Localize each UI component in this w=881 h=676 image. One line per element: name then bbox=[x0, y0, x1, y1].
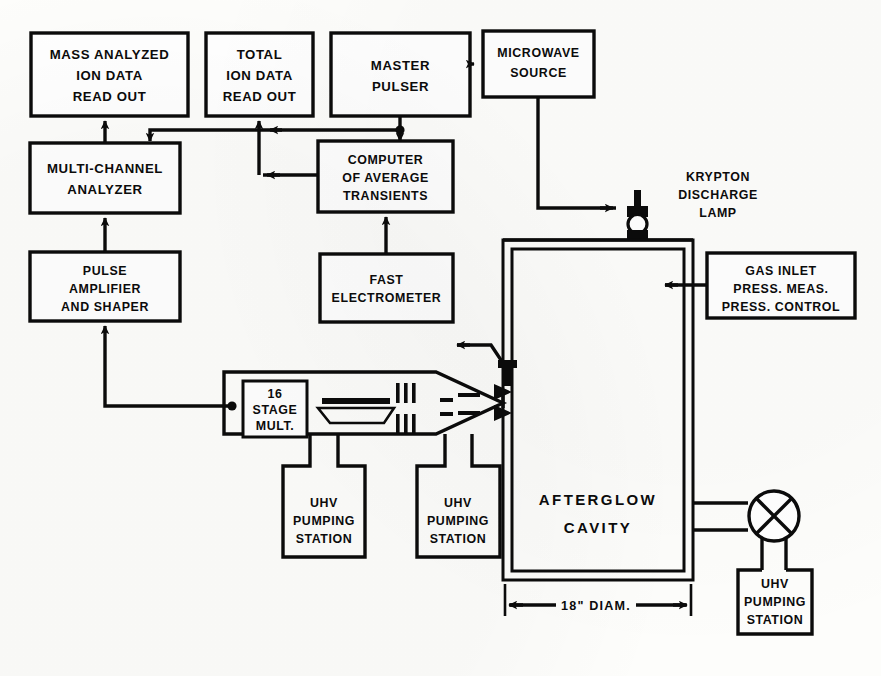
block-label-line: MASS ANALYZED bbox=[50, 47, 170, 62]
uhv-pump-left-assembly: UHV PUMPING STATION bbox=[283, 434, 365, 557]
wire-multiplier-to-pulse-amplifier bbox=[105, 326, 237, 411]
annotation-line: AFTERGLOW bbox=[539, 491, 657, 508]
block-label-line: MICROWAVE bbox=[497, 46, 579, 60]
krypton-discharge-lamp-assembly bbox=[627, 190, 648, 240]
block-label-line: ANALYZER bbox=[67, 182, 142, 197]
annotation-line: DISCHARGE bbox=[678, 188, 758, 202]
block-mass-analyzed-ion-data-read-out: MASS ANALYZED ION DATA READ OUT bbox=[31, 33, 188, 116]
block-label-line: SOURCE bbox=[510, 66, 567, 80]
block-label-line: MULTI-CHANNEL bbox=[47, 161, 163, 176]
block-label-line: PULSER bbox=[372, 79, 429, 94]
block-label-line: UHV bbox=[310, 496, 338, 510]
wire-master-pulser-bus bbox=[150, 116, 405, 141]
block-label-line: PRESS. MEAS. bbox=[733, 282, 828, 296]
block-label-line: MULT. bbox=[256, 419, 295, 433]
block-label-line: GAS INLET bbox=[745, 264, 817, 278]
block-label-line: STATION bbox=[296, 532, 353, 546]
block-label-line: MASTER bbox=[371, 58, 430, 73]
block-fast-electrometer: FAST ELECTROMETER bbox=[320, 254, 453, 322]
block-label-line: ION DATA bbox=[76, 68, 143, 83]
dimension-18-inch-diameter: 18" DIAM. bbox=[505, 584, 691, 616]
block-label-line: FAST bbox=[369, 273, 403, 287]
block-label-line: ION DATA bbox=[226, 68, 293, 83]
block-16-stage-multiplier: 16 STAGE MULT. bbox=[243, 381, 307, 437]
block-label-line: PUMPING bbox=[427, 514, 489, 528]
block-label-line: AMPLIFIER bbox=[69, 282, 141, 296]
cavity-electrometer-port bbox=[498, 360, 517, 386]
block-label-line: AND SHAPER bbox=[61, 300, 149, 314]
block-label-line: STAGE bbox=[253, 403, 298, 417]
afterglow-cavity-vessel: AFTERGLOW CAVITY bbox=[503, 240, 693, 580]
wire-microwave-source-to-lamp bbox=[538, 97, 616, 208]
block-total-ion-data-read-out: TOTAL ION DATA READ OUT bbox=[206, 33, 313, 116]
gate-valve-symbol bbox=[749, 491, 799, 541]
schematic-canvas: MASS ANALYZED ION DATA READ OUT TOTAL IO… bbox=[0, 0, 881, 676]
block-pulse-amplifier-and-shaper: PULSE AMPLIFIER AND SHAPER bbox=[30, 252, 180, 321]
quadrupole-element bbox=[318, 398, 394, 423]
block-label-line: PULSE bbox=[83, 264, 127, 278]
extraction-aperture-marks bbox=[440, 393, 480, 416]
junction-dot bbox=[227, 401, 236, 410]
block-label-line: TRANSIENTS bbox=[343, 189, 428, 203]
block-label-line: ELECTROMETER bbox=[332, 291, 442, 305]
block-label-line: PUMPING bbox=[744, 595, 806, 609]
block-label-line: PUMPING bbox=[293, 514, 355, 528]
label-krypton-discharge-lamp: KRYPTON DISCHARGE LAMP bbox=[678, 170, 758, 220]
block-label-line: READ OUT bbox=[73, 89, 147, 104]
ion-lens-plates bbox=[396, 383, 416, 434]
block-label-line: COMPUTER bbox=[348, 153, 424, 167]
block-label-line: UHV bbox=[761, 577, 789, 591]
dimension-label: 18" DIAM. bbox=[561, 599, 631, 613]
block-label-line: STATION bbox=[747, 613, 804, 627]
block-computer-of-average-transients: COMPUTER OF AVERAGE TRANSIENTS bbox=[318, 141, 453, 212]
block-label-line: PRESS. CONTROL bbox=[722, 300, 841, 314]
block-label-line: STATION bbox=[430, 532, 487, 546]
uhv-pump-mid-assembly: UHV PUMPING STATION bbox=[417, 434, 500, 557]
block-multi-channel-analyzer: MULTI-CHANNEL ANALYZER bbox=[30, 143, 180, 213]
block-label-line: 16 bbox=[268, 387, 283, 401]
block-label-line: OF AVERAGE bbox=[342, 171, 429, 185]
block-label-line: READ OUT bbox=[223, 89, 297, 104]
annotation-line: KRYPTON bbox=[686, 170, 750, 184]
uhv-pump-right-assembly: UHV PUMPING STATION bbox=[738, 570, 812, 634]
annotation-line: CAVITY bbox=[564, 519, 632, 536]
apparatus-diagram: MASS ANALYZED ION DATA READ OUT TOTAL IO… bbox=[0, 0, 881, 676]
block-microwave-source: MICROWAVE SOURCE bbox=[483, 31, 594, 97]
annotation-line: LAMP bbox=[699, 206, 737, 220]
block-gas-inlet-pressure-control: GAS INLET PRESS. MEAS. PRESS. CONTROL bbox=[707, 253, 855, 318]
block-master-pulser: MASTER PULSER bbox=[331, 33, 470, 116]
block-label-line: UHV bbox=[444, 496, 472, 510]
junction-dot bbox=[395, 125, 404, 134]
block-label-line: TOTAL bbox=[237, 47, 283, 62]
